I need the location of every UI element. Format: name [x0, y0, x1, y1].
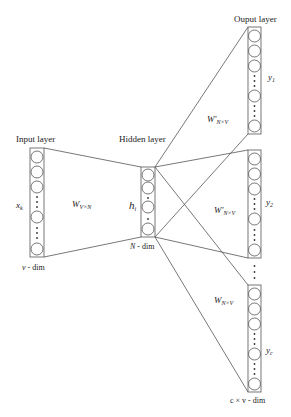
- connection-line: [155, 150, 248, 167]
- output-layer-title: Ouput layer: [234, 14, 277, 24]
- connection-line: [155, 237, 248, 258]
- weight-hidden-output-3: WN×V: [214, 295, 233, 306]
- hidden-dim-label: N - dim: [130, 242, 154, 251]
- output-variable-2: y2: [266, 197, 273, 208]
- weight-input-hidden: WV×N: [72, 199, 91, 210]
- hidden-variable: hi: [129, 199, 136, 212]
- output-variable-1: y1: [268, 72, 275, 83]
- hidden-layer-box: [141, 167, 155, 237]
- hidden-layer-title: Hidden layer: [119, 134, 166, 144]
- connection-line: [155, 27, 248, 167]
- weight-hidden-output-2: W'N×V: [214, 205, 235, 216]
- connection-line: [44, 237, 141, 257]
- network-diagram: [0, 0, 291, 417]
- between-blocks-ellipsis-dots: [254, 265, 256, 279]
- input-dim-label: v - dim: [22, 263, 45, 272]
- weight-hidden-output-1: W'N×V: [207, 114, 228, 125]
- output-variable-c: yc: [266, 345, 273, 356]
- input-layer-title: Input layer: [16, 134, 55, 144]
- connection-line: [44, 148, 141, 167]
- connection-line: [155, 134, 248, 237]
- connection-line: [155, 167, 248, 285]
- connection-line: [155, 237, 248, 392]
- output-dim-label: c × v - dim: [230, 396, 265, 405]
- input-variable: xk: [16, 200, 23, 211]
